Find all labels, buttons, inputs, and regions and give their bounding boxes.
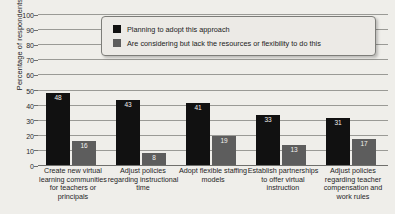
bar: 16 — [72, 141, 96, 165]
bar-group: 4816 — [38, 14, 108, 165]
category-label: Establish partnerships to offer virtual … — [247, 167, 319, 193]
y-tick-label-20: 20 — [26, 132, 34, 139]
legend-label-considering: Are considering but lack the resources o… — [127, 39, 321, 48]
y-tick-label-90: 90 — [26, 27, 34, 34]
category-label: Adjust policies regarding instructional … — [107, 167, 179, 193]
category-label: Adjust policies regarding teacher compen… — [317, 167, 389, 201]
y-tick-label-10: 10 — [26, 147, 34, 154]
legend: Planning to adopt this approach Are cons… — [101, 16, 376, 56]
y-tick-label-60: 60 — [26, 72, 34, 79]
bar: 19 — [212, 136, 236, 165]
legend-item-planning: Planning to adopt this approach — [113, 22, 375, 36]
y-tick-label-30: 30 — [26, 117, 34, 124]
bar: 8 — [142, 153, 166, 165]
bar-value-label: 17 — [352, 141, 376, 148]
legend-swatch-planning-icon — [113, 25, 121, 33]
bar-value-label: 48 — [46, 95, 70, 102]
bar-chart: Percentage of respondents 01020304050607… — [0, 0, 395, 214]
bar-value-label: 8 — [142, 155, 166, 162]
bar-value-label: 31 — [326, 120, 350, 127]
bar-value-label: 41 — [186, 105, 210, 112]
bar: 43 — [116, 100, 140, 165]
y-tick-label-50: 50 — [26, 87, 34, 94]
legend-item-considering: Are considering but lack the resources o… — [113, 36, 375, 50]
bar: 31 — [326, 118, 350, 165]
y-tick-label-70: 70 — [26, 57, 34, 64]
category-label: Create new virtual learning communities … — [37, 167, 109, 201]
bar: 41 — [186, 103, 210, 165]
bar-value-label: 43 — [116, 102, 140, 109]
bar-value-label: 33 — [256, 117, 280, 124]
bar: 33 — [256, 115, 280, 165]
bar-value-label: 13 — [282, 147, 306, 154]
legend-swatch-considering-icon — [113, 39, 121, 47]
bar-value-label: 19 — [212, 138, 236, 145]
bar-value-label: 16 — [72, 143, 96, 150]
bar: 13 — [282, 145, 306, 165]
y-tick-label-100: 100 — [22, 12, 34, 19]
bar: 48 — [46, 93, 70, 165]
legend-label-planning: Planning to adopt this approach — [127, 25, 230, 34]
x-axis-category-labels: Create new virtual learning communities … — [38, 167, 388, 214]
y-tick-label-80: 80 — [26, 42, 34, 49]
category-label: Adopt flexible staffing models — [177, 167, 249, 184]
y-tick-label-40: 40 — [26, 102, 34, 109]
bar: 17 — [352, 139, 376, 165]
